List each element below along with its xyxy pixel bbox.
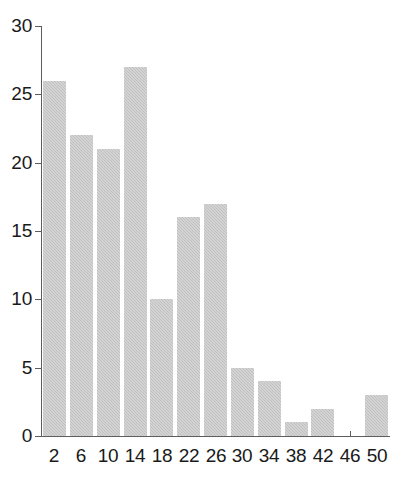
x-tick-label: 6 [76, 446, 86, 466]
y-tick-mark [35, 94, 41, 95]
x-tick-label: 14 [125, 446, 146, 466]
y-tick-label: 10 [11, 289, 32, 308]
bar [204, 204, 227, 436]
bar [150, 299, 173, 436]
y-tick-mark [35, 231, 41, 232]
bar [285, 422, 308, 436]
x-tick-label: 34 [259, 446, 280, 466]
y-tick-mark [35, 26, 41, 27]
bar [365, 395, 388, 436]
x-tick-label: 18 [152, 446, 173, 466]
x-tick-label: 30 [232, 446, 253, 466]
x-tick-label: 42 [313, 446, 334, 466]
y-tick-mark [35, 163, 41, 164]
x-tick-label: 26 [206, 446, 227, 466]
y-tick-mark [35, 368, 41, 369]
y-tick-label: 25 [11, 84, 32, 103]
bar [231, 368, 254, 436]
x-tick-label: 22 [179, 446, 200, 466]
y-tick-label: 15 [11, 221, 32, 240]
y-tick-label: 30 [11, 16, 32, 35]
chart-title [0, 0, 398, 10]
x-tick-label: 50 [367, 446, 388, 466]
bar [124, 67, 147, 436]
y-tick-mark [35, 299, 41, 300]
bar [177, 217, 200, 436]
plot-area [42, 26, 390, 436]
bar [311, 409, 334, 436]
bar [43, 81, 66, 436]
y-tick-mark [35, 436, 41, 437]
x-tick-label: 46 [340, 446, 361, 466]
x-tick-label: 38 [286, 446, 307, 466]
x-tick-label: 2 [49, 446, 59, 466]
y-tick-label: 20 [11, 153, 32, 172]
histogram-chart: 051015202530 261014182226303438424650 [0, 0, 398, 481]
y-tick-label: 0 [22, 426, 32, 445]
x-tick-label: 10 [98, 446, 119, 466]
bar [97, 149, 120, 436]
bar [258, 381, 281, 436]
y-tick-label: 5 [22, 358, 32, 377]
bar [70, 135, 93, 436]
